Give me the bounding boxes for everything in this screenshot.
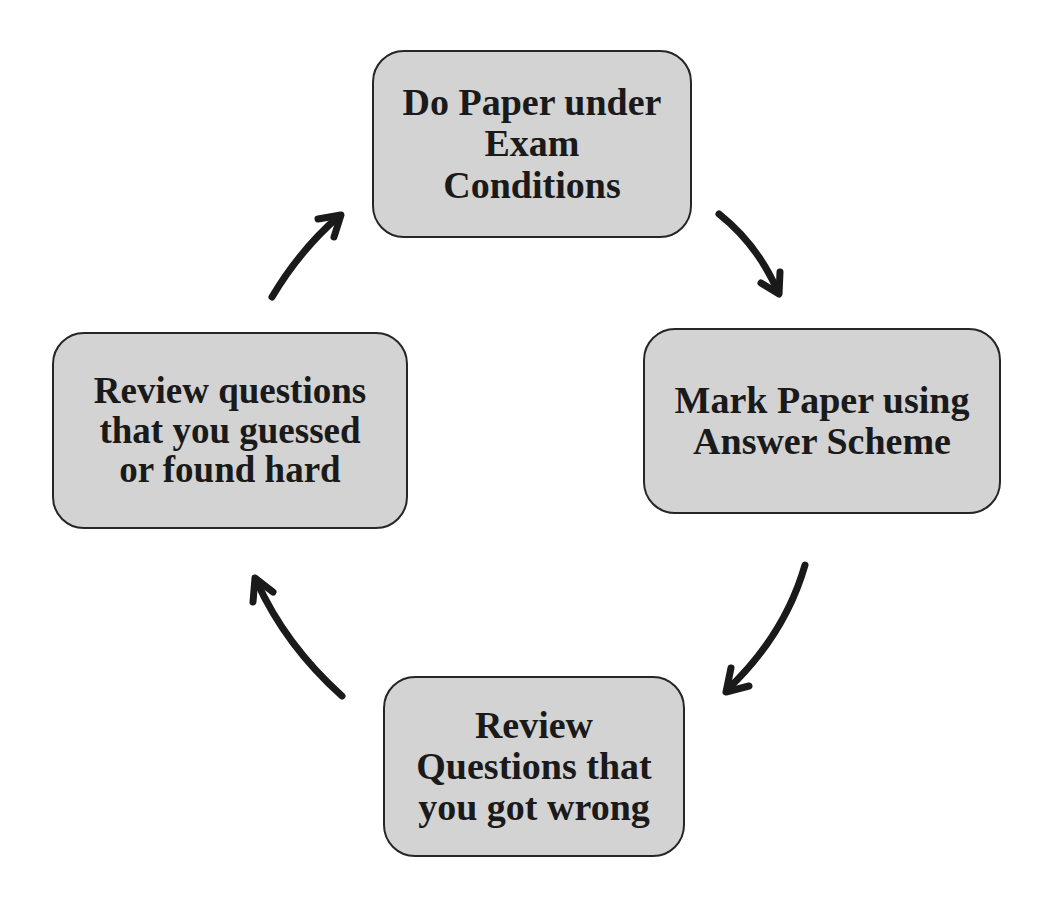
arrow-do-to-mark [719, 214, 780, 294]
node-review-guessed-label: Review questions that you guessed or fou… [94, 371, 366, 491]
node-mark-paper-label: Mark Paper using Answer Scheme [675, 380, 970, 462]
node-mark-paper: Mark Paper using Answer Scheme [643, 328, 1001, 514]
arrow-mark-to-review-wrong [726, 565, 805, 692]
node-review-wrong-label: Review Questions that you got wrong [416, 705, 651, 828]
arrow-review-wrong-to-review-guessed [253, 578, 342, 696]
node-do-paper-label: Do Paper under Exam Conditions [403, 82, 662, 205]
node-do-paper: Do Paper under Exam Conditions [372, 50, 692, 238]
arrow-review-guessed-to-do [272, 215, 341, 297]
node-review-wrong: Review Questions that you got wrong [383, 676, 685, 857]
node-review-guessed: Review questions that you guessed or fou… [52, 332, 408, 529]
